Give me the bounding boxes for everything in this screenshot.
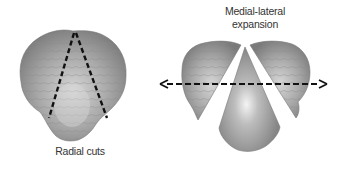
label-line-1: Medial-lateral xyxy=(205,5,305,18)
arrowhead-right-icon xyxy=(319,80,327,88)
medial-lateral-expansion-label: Medial-lateral expansion xyxy=(205,5,305,31)
radial-cuts-label: Radial cuts xyxy=(40,145,120,158)
arrowhead-left-icon xyxy=(160,80,168,88)
expanded-cerebellum xyxy=(182,41,310,151)
intact-cerebellum xyxy=(20,30,126,141)
label-line-2: expansion xyxy=(205,18,305,31)
